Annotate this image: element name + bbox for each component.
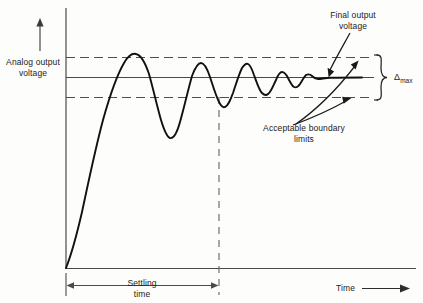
boundary-label-line2: limits [248,134,360,145]
settling-time-label: Settling time [107,278,177,299]
final-output-leader-arrow [328,33,350,77]
delta-max-label: Δmax [394,72,412,86]
upper-boundary-leader-arrow [296,61,359,124]
y-axis-label-line1: Analog output [4,57,62,68]
y-axis-label: Analog output voltage [4,57,62,78]
lower-boundary-leader-arrow [293,97,351,125]
final-output-voltage-label: Final output voltage [316,10,390,31]
delta-max-brace [377,55,387,100]
settling-time-diagram: Analog output voltage Final output volta… [0,0,423,303]
final-output-label-line1: Final output [316,10,390,21]
delta-subscript: max [400,77,412,84]
acceptable-boundary-limits-label: Acceptable boundary limits [248,123,360,144]
final-output-label-line2: voltage [316,21,390,32]
settling-time-label-line2: time [107,289,177,300]
boundary-label-line1: Acceptable boundary [248,123,360,134]
y-axis-direction-arrow-icon [36,18,43,51]
time-axis-arrow-icon [362,284,410,292]
settling-time-label-line1: Settling [107,278,177,289]
time-axis-label: Time [336,283,355,294]
y-axis-label-line2: voltage [4,68,62,79]
diagram-canvas [0,0,423,303]
analog-output-waveform [66,54,362,268]
